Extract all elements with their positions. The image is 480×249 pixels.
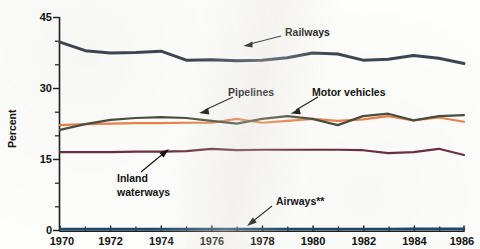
series-line-railways xyxy=(60,42,464,63)
arrowhead-motor-vehicles xyxy=(291,108,301,114)
x-tick-label-1974: 1974 xyxy=(149,235,174,247)
x-tick-label-1976: 1976 xyxy=(200,235,224,247)
chart-container: Percent 45 30 15 0 xyxy=(0,0,480,249)
x-tick-label-1970: 1970 xyxy=(50,235,74,247)
y-tick-label-15: 15 xyxy=(40,153,52,165)
annotation-pipelines: Pipelines xyxy=(228,86,274,98)
line-chart: Percent 45 30 15 0 xyxy=(0,0,480,249)
leader-railways xyxy=(250,36,281,44)
annotation-waterways: waterways xyxy=(116,186,170,198)
x-tick-label-1986: 1986 xyxy=(450,235,474,247)
leader-airways xyxy=(252,206,272,222)
y-tick-label-45: 45 xyxy=(40,11,52,23)
annotation-airways: Airways** xyxy=(276,195,325,207)
y-axis-title: Percent xyxy=(6,109,18,148)
annotation-railways: Railways xyxy=(285,26,330,38)
series-line-inland-waterways xyxy=(60,149,464,155)
arrowhead-railways xyxy=(244,41,253,47)
y-tick-label-30: 30 xyxy=(40,82,52,94)
annotation-inland: Inland xyxy=(117,172,148,184)
series-layer xyxy=(60,42,464,229)
x-tick-label-1972: 1972 xyxy=(98,235,122,247)
leader-inland-waterways xyxy=(141,153,164,172)
annotation-motor-vehicles: Motor vehicles xyxy=(312,86,386,98)
x-tick-label-1978: 1978 xyxy=(250,235,274,247)
arrowhead-pipelines xyxy=(199,108,209,114)
x-tick-label-1980: 1980 xyxy=(301,235,325,247)
x-tick-label-1984: 1984 xyxy=(402,235,427,247)
leader-motor-vehicles xyxy=(296,97,318,110)
leader-pipelines xyxy=(205,97,233,110)
x-tick-label-1982: 1982 xyxy=(352,235,376,247)
